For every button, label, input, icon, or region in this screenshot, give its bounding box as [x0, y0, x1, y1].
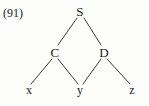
syntax-tree-figure: (91) SCDxyz [0, 0, 149, 106]
tree-node-d: D [99, 46, 109, 59]
tree-edge-d-y [83, 59, 101, 84]
tree-node-x: x [26, 84, 32, 96]
tree-edges-group [0, 0, 149, 106]
tree-edge-s-c [58, 18, 77, 45]
tree-node-s: S [76, 5, 83, 18]
tree-edge-c-y [58, 59, 78, 84]
tree-edge-c-x [31, 59, 52, 84]
tree-edge-s-d [84, 18, 101, 45]
tree-node-z: z [129, 84, 134, 96]
tree-edge-d-z [107, 59, 130, 84]
tree-node-y: y [77, 84, 83, 96]
tree-node-c: C [51, 46, 60, 59]
